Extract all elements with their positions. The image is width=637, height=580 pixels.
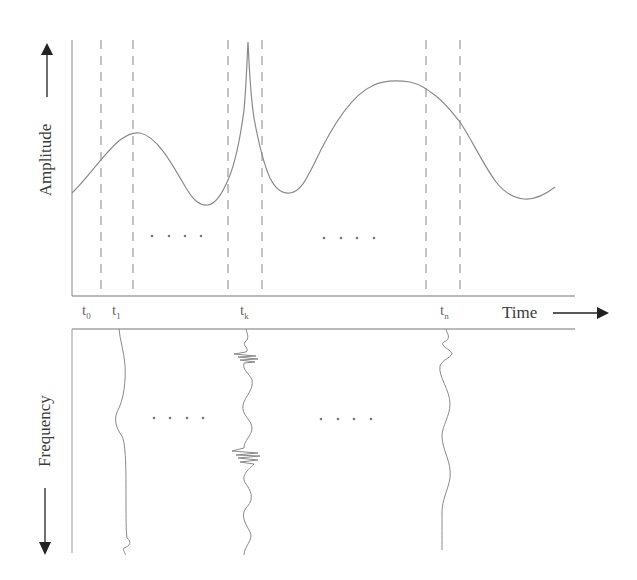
frequency-axis-label: Frequency	[35, 388, 55, 474]
time-marker-t1: t1	[112, 302, 121, 321]
amplitude-arrow-up-icon	[41, 43, 53, 97]
bottom-ellipsis-right	[320, 418, 373, 421]
top-panel	[41, 40, 575, 296]
frequency-arrow-down-icon	[39, 488, 51, 555]
bottom-ellipsis-left	[153, 417, 205, 420]
spectrum-trace-tn	[440, 329, 452, 550]
time-axis-label: Time	[502, 303, 537, 323]
top-ellipsis-right	[323, 237, 376, 240]
window-lines	[101, 40, 460, 292]
time-frequency-diagram	[0, 0, 637, 580]
time-marker-t0: t0	[82, 302, 91, 321]
amplitude-waveform	[72, 42, 555, 205]
bottom-panel	[39, 329, 575, 555]
time-arrow-right-icon	[553, 307, 609, 319]
time-marker-tn: tn	[440, 302, 449, 321]
spectrum-trace-t1	[116, 329, 130, 555]
spectrum-trace-tk	[232, 329, 260, 555]
top-ellipsis-left	[151, 235, 203, 238]
amplitude-axis-label: Amplitude	[36, 120, 56, 200]
time-marker-tk: tk	[240, 302, 249, 321]
